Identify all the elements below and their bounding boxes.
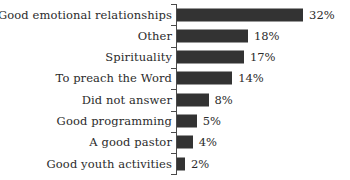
bar-value-label: 5% [203, 115, 221, 128]
bar-value-label: 32% [309, 8, 335, 21]
axis-tick [171, 89, 176, 90]
bar [177, 29, 248, 42]
bar [177, 8, 303, 21]
category-label: To preach the Word [56, 72, 173, 85]
bar-value-label: 18% [254, 29, 280, 42]
bar-row: Good emotional relationships32% [0, 4, 350, 25]
axis-tick [171, 111, 176, 112]
bar-with-value: 32% [177, 8, 335, 21]
category-label: Good youth activities [47, 157, 172, 170]
bar-with-value: 8% [177, 93, 233, 106]
bar-with-value: 17% [177, 51, 276, 64]
bar-with-value: 4% [177, 136, 217, 149]
axis-tick [171, 153, 176, 154]
category-label: Other [138, 29, 172, 42]
bar-row: Did not answer8% [0, 89, 350, 110]
bar-value-label: 17% [250, 51, 276, 64]
bar [177, 115, 197, 128]
bar-value-label: 8% [215, 93, 233, 106]
bar-row: Good programming5% [0, 111, 350, 132]
bar-with-value: 18% [177, 29, 279, 42]
axis-tick [171, 47, 176, 48]
bar-value-label: 2% [191, 157, 209, 170]
bar-chart: Good emotional relationships32%Other18%S… [0, 0, 350, 180]
bar-value-label: 14% [238, 72, 264, 85]
category-label: Did not answer [82, 93, 172, 106]
category-label: Spirituality [105, 51, 172, 64]
axis-tick [171, 4, 176, 5]
axis-tick [171, 68, 176, 69]
category-label: A good pastor [89, 136, 172, 149]
bar [177, 136, 193, 149]
bar [177, 51, 244, 64]
plot-area: Good emotional relationships32%Other18%S… [0, 0, 350, 180]
bar [177, 157, 185, 170]
bar-row: Other18% [0, 25, 350, 46]
bar-value-label: 4% [199, 136, 217, 149]
axis-tick [171, 132, 176, 133]
axis-tick [171, 174, 176, 175]
category-label: Good programming [57, 115, 172, 128]
category-label: Good emotional relationships [0, 8, 172, 21]
bar-row: To preach the Word14% [0, 68, 350, 89]
bar-row: Spirituality17% [0, 47, 350, 68]
bar-row: Good youth activities2% [0, 153, 350, 174]
bar-row: A good pastor4% [0, 132, 350, 153]
bar-with-value: 2% [177, 157, 209, 170]
axis-tick [171, 25, 176, 26]
bar-with-value: 5% [177, 115, 221, 128]
bar-with-value: 14% [177, 72, 264, 85]
bar [177, 72, 232, 85]
bar [177, 93, 209, 106]
